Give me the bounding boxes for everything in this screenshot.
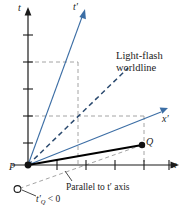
point-q-dot (139, 142, 145, 148)
projection-dashed-lines (28, 62, 144, 165)
segment-p-to-q (28, 145, 142, 165)
t-axis-label: t (18, 2, 21, 13)
tq-negative-caption: t′Q < 0 (36, 194, 60, 205)
t-prime-arrowhead (79, 9, 86, 19)
light-flash-worldline-caption: Light-flash worldline (116, 50, 163, 74)
x-prime-axis-label: x′ (162, 113, 169, 124)
minkowski-diagram: t t′ x x′ P Q Light-flash worldline Para… (0, 0, 184, 219)
pq-segment-line (28, 145, 142, 165)
light-flash-caption-line2: worldline (116, 62, 156, 73)
t-prime-axis-label: t′ (73, 1, 78, 12)
tq-inequality: < 0 (45, 194, 60, 204)
x-axis-label: x (172, 159, 176, 170)
point-p-dot (25, 162, 32, 169)
point-q-label: Q (146, 136, 153, 147)
tq-caption-leader (22, 190, 36, 196)
x-prime-axis-line (28, 112, 161, 165)
t-axis-arrowhead (25, 7, 32, 16)
t-prime-axis-line (28, 17, 82, 165)
point-p-label: P (9, 161, 15, 172)
open-circle-marker (14, 186, 21, 193)
parallel-to-t-prime-caption: Parallel to t′ axis (66, 182, 130, 193)
parallel-caption-leader (65, 171, 72, 181)
axes-group (12, 7, 179, 170)
light-flash-caption-line1: Light-flash (116, 50, 163, 61)
